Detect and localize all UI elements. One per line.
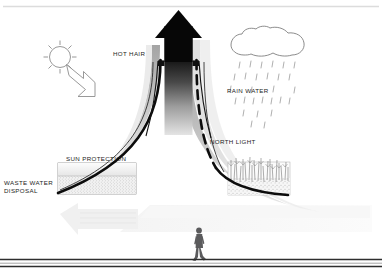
vegetation-bed: [228, 157, 290, 195]
label-rain-water: RAIN WATER: [227, 87, 269, 95]
person-walking-icon: [193, 227, 207, 261]
label-waste-water-disposal: WASTE WATER DISPOSAL: [4, 179, 53, 195]
cloud-icon: [231, 26, 304, 56]
ground-lines: [0, 260, 382, 267]
label-north-light: NORTH LIGHT: [210, 138, 256, 146]
label-hot-hair: HOT HAIR: [113, 50, 145, 58]
diagram-svg: [0, 0, 382, 272]
floor-wash: [120, 205, 372, 232]
label-sun-protection: SUN PROTECTION: [66, 155, 126, 163]
arrow-down-right-icon: [67, 65, 96, 97]
diagram-canvas: HOT HAIR RAIN WATER NORTH LIGHT SUN PROT…: [0, 0, 382, 272]
